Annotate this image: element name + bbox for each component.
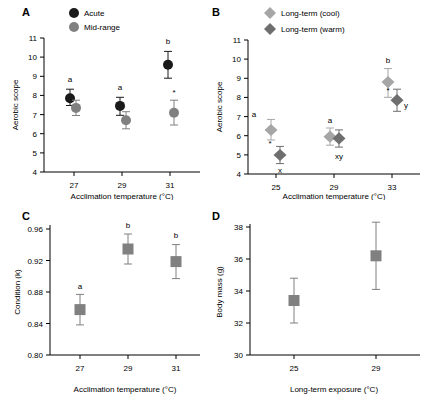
data-point bbox=[115, 101, 125, 111]
data-point bbox=[123, 244, 134, 255]
panel-b-xtick-2: 33 bbox=[388, 183, 397, 192]
panel-b-series-cool: a a b bbox=[252, 56, 395, 145]
panel-d-ytick-2: 34 bbox=[234, 287, 243, 296]
sig-label: * bbox=[172, 88, 175, 97]
panel-b-letter: B bbox=[212, 6, 220, 18]
data-point bbox=[169, 108, 179, 118]
panel-d-ylabel: Body mass (g) bbox=[215, 266, 224, 318]
data-point bbox=[391, 94, 404, 106]
legend-marker-longterm-warm bbox=[264, 23, 276, 35]
panel-a-xtick-2: 31 bbox=[166, 181, 175, 190]
panel-c-xtick-0: 27 bbox=[76, 364, 85, 373]
sig-label: x bbox=[278, 166, 282, 175]
panel-a-xlabel: Acclimation temperature (°C) bbox=[71, 192, 174, 200]
panel-c-ytick-2: 0.88 bbox=[27, 288, 43, 297]
panel-b-xlabel: Acclimation temperature (°C) bbox=[283, 192, 386, 200]
data-point bbox=[71, 103, 81, 113]
panel-d-ytick-4: 38 bbox=[234, 223, 243, 232]
panel-d-series bbox=[289, 222, 382, 323]
sig-label: a bbox=[328, 116, 333, 125]
data-point bbox=[121, 115, 131, 125]
sig-label-asterisk: * bbox=[268, 139, 271, 148]
legend-label-longterm-cool: Long-term (cool) bbox=[281, 9, 340, 18]
legend-marker-midrange bbox=[69, 22, 79, 32]
data-point bbox=[289, 295, 300, 306]
panel-a-ytick-4: 8 bbox=[33, 91, 38, 100]
panel-c-series: a b b bbox=[75, 221, 182, 325]
panel-a: A Acute Mid-range 4 5 6 7 8 bbox=[0, 0, 206, 200]
panel-a-ytick-6: 10 bbox=[28, 53, 37, 62]
panel-b-ytick-5: 9 bbox=[237, 74, 242, 83]
panel-b-ytick-0: 4 bbox=[237, 170, 242, 179]
panel-d-ytick-0: 30 bbox=[234, 351, 243, 360]
panel-a-xtick-1: 29 bbox=[118, 181, 127, 190]
panel-a-y-ticks: 4 5 6 7 8 9 10 11 bbox=[28, 34, 44, 177]
sig-label: y bbox=[404, 101, 408, 110]
panel-b-ylabel: Aerobic scope bbox=[215, 81, 224, 132]
panel-a-ytick-3: 7 bbox=[33, 111, 38, 120]
data-point bbox=[371, 250, 382, 261]
panel-b-ytick-4: 8 bbox=[237, 93, 242, 102]
panel-a-ytick-1: 5 bbox=[33, 149, 38, 158]
panel-c-xlabel: Acclimation temperature (°C) bbox=[74, 385, 177, 394]
panel-c-plot: C 0.80 0.84 0.88 0.92 0.96 27 29 bbox=[0, 200, 206, 401]
data-point bbox=[75, 304, 86, 315]
panel-b-ytick-7: 11 bbox=[233, 36, 242, 45]
data-point bbox=[65, 93, 75, 103]
legend-marker-longterm-cool bbox=[264, 7, 276, 19]
data-point bbox=[171, 256, 182, 267]
panel-b: B Long-term (cool) Long-term (warm) 4 5 … bbox=[206, 0, 426, 200]
panel-b-ytick-1: 5 bbox=[237, 151, 242, 160]
panel-d: D 30 32 34 36 38 25 29 bbox=[206, 200, 426, 401]
legend-label-midrange: Mid-range bbox=[84, 23, 121, 32]
sig-label: b bbox=[386, 56, 391, 65]
panel-c-letter: C bbox=[22, 210, 30, 222]
legend-label-acute: Acute bbox=[84, 9, 105, 18]
sig-label: b bbox=[174, 231, 179, 240]
sig-label: a bbox=[118, 83, 123, 92]
panel-c-ytick-0: 0.80 bbox=[27, 351, 43, 360]
panel-a-ytick-5: 9 bbox=[33, 72, 38, 81]
panel-d-xlabel: Long-term exposure (°C) bbox=[290, 385, 378, 394]
panel-b-ytick-3: 7 bbox=[237, 113, 242, 122]
panel-b-ytick-6: 10 bbox=[232, 55, 241, 64]
figure-container: A Acute Mid-range 4 5 6 7 8 bbox=[0, 0, 426, 401]
panel-a-xtick-0: 27 bbox=[70, 181, 79, 190]
panel-a-series-midrange: * bbox=[71, 88, 179, 129]
panel-c-ytick-1: 0.84 bbox=[27, 320, 43, 329]
panel-b-ytick-2: 6 bbox=[237, 132, 242, 141]
panel-d-y-ticks: 30 32 34 36 38 bbox=[234, 223, 250, 360]
panel-d-xtick-0: 25 bbox=[290, 364, 299, 373]
sig-label: xy bbox=[335, 152, 343, 161]
panel-d-letter: D bbox=[212, 210, 220, 222]
sig-label-asterisk: * bbox=[386, 86, 389, 95]
panel-b-xtick-0: 25 bbox=[272, 183, 281, 192]
sig-label: a bbox=[68, 75, 73, 84]
panel-d-xtick-1: 29 bbox=[372, 364, 381, 373]
legend-label-longterm-warm: Long-term (warm) bbox=[281, 25, 345, 34]
panel-b-x-ticks: 25 29 33 bbox=[272, 174, 397, 192]
sig-label: b bbox=[166, 37, 171, 46]
data-point bbox=[265, 124, 278, 136]
panel-b-xtick-1: 29 bbox=[330, 183, 339, 192]
panel-c: C 0.80 0.84 0.88 0.92 0.96 27 29 bbox=[0, 200, 206, 401]
data-point bbox=[274, 149, 287, 161]
panel-a-ytick-7: 11 bbox=[29, 34, 38, 43]
panel-c-y-ticks: 0.80 0.84 0.88 0.92 0.96 bbox=[27, 225, 50, 360]
panel-d-ytick-3: 36 bbox=[234, 255, 243, 264]
panel-c-ytick-3: 0.92 bbox=[27, 257, 43, 266]
panel-d-plot: D 30 32 34 36 38 25 29 bbox=[206, 200, 426, 401]
legend-marker-acute bbox=[69, 8, 79, 18]
panel-d-x-ticks: 25 29 bbox=[290, 355, 381, 373]
data-point bbox=[163, 60, 173, 70]
panel-a-ytick-2: 6 bbox=[33, 130, 38, 139]
panel-a-letter: A bbox=[22, 6, 30, 18]
panel-b-series-warm: * x xy * y bbox=[268, 86, 408, 175]
sig-label: a bbox=[78, 282, 83, 291]
data-point bbox=[333, 132, 346, 144]
panel-c-xtick-2: 31 bbox=[172, 364, 181, 373]
sig-label: b bbox=[126, 221, 131, 230]
panel-b-plot: B Long-term (cool) Long-term (warm) 4 5 … bbox=[206, 0, 426, 200]
panel-a-series-acute: a a b bbox=[65, 37, 173, 115]
panel-c-ytick-4: 0.96 bbox=[27, 225, 43, 234]
